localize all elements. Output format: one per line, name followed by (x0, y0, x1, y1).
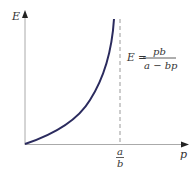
asymptote-label-num: a (117, 146, 123, 157)
x-axis-arrow-icon (181, 142, 189, 148)
x-axis-label: p (180, 148, 187, 161)
equation-numerator: pb (153, 46, 166, 57)
asymptote-label-den: b (117, 158, 123, 169)
y-axis-arrow-icon (22, 10, 28, 18)
y-axis-label: E (11, 10, 20, 23)
chart-svg: E p a b E = pb a − bp (0, 0, 196, 173)
curve (25, 19, 114, 144)
chart: E p a b E = pb a − bp (0, 0, 196, 173)
equation-denominator: a − bp (144, 60, 178, 71)
